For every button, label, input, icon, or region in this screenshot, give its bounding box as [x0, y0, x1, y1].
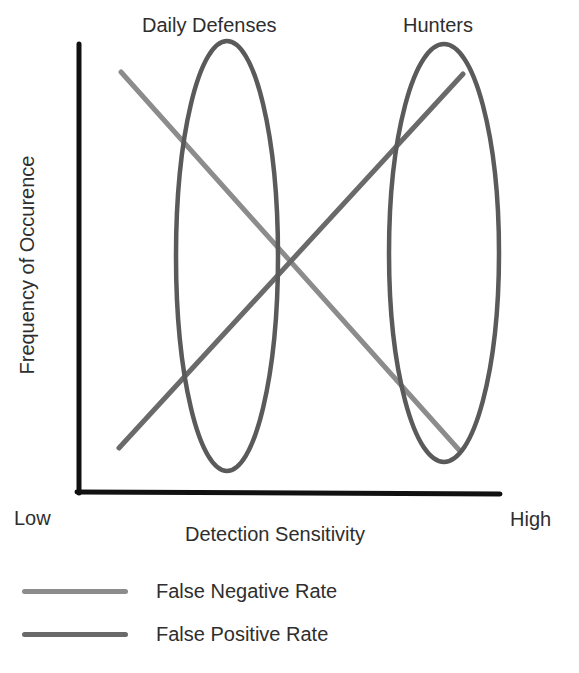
chart-canvas: [0, 0, 579, 673]
legend-item-false-negative: False Negative Rate: [22, 579, 128, 603]
x-high-label: High: [510, 508, 551, 531]
legend-label-false-positive: False Positive Rate: [156, 623, 328, 646]
y-axis-title: Frequency of Occurence: [16, 156, 39, 375]
legend-swatch-false-negative: [22, 589, 128, 594]
daily-defenses-ellipse: [176, 41, 278, 471]
x-low-label: Low: [14, 507, 51, 530]
daily-defenses-label: Daily Defenses: [142, 14, 277, 37]
hunters-ellipse: [389, 44, 499, 462]
hunters-label: Hunters: [403, 14, 473, 37]
legend-item-false-positive: False Positive Rate: [22, 622, 128, 646]
legend-label-false-negative: False Negative Rate: [156, 580, 337, 603]
x-axis: [77, 492, 500, 494]
x-axis-title: Detection Sensitivity: [185, 523, 365, 546]
legend-swatch-false-positive: [22, 632, 128, 637]
